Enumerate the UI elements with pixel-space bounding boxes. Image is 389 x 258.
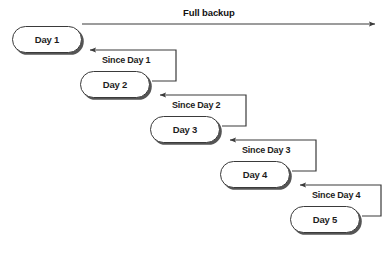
node-day-2[interactable]: Day 2 (80, 71, 150, 98)
edge-label-since-day-4: Since Day 4 (311, 190, 361, 200)
edge-label-since-day-2: Since Day 2 (171, 100, 221, 110)
node-day-3-label: Day 3 (173, 125, 197, 135)
node-day-1[interactable]: Day 1 (12, 26, 82, 53)
node-day-5-label: Day 5 (313, 215, 337, 225)
edge-label-since-day-3: Since Day 3 (241, 145, 291, 155)
node-day-4-label: Day 4 (243, 170, 267, 180)
node-day-1-label: Day 1 (35, 35, 59, 45)
node-day-5[interactable]: Day 5 (290, 206, 360, 233)
edge-label-since-day-1: Since Day 1 (101, 55, 151, 65)
full-backup-label: Full backup (183, 7, 235, 18)
backup-schedule-diagram: Full backup Day 1 Day 2 Day 3 Day 4 Day … (0, 0, 389, 258)
node-day-3[interactable]: Day 3 (150, 116, 220, 143)
node-day-2-label: Day 2 (103, 80, 127, 90)
node-day-4[interactable]: Day 4 (220, 161, 290, 188)
